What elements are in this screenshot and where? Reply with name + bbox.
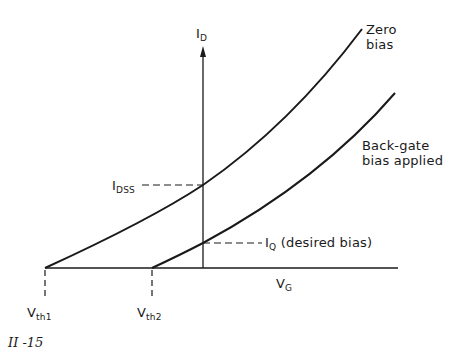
x-axis-label: VG bbox=[276, 276, 292, 293]
idss-label: IDSS bbox=[112, 178, 135, 195]
y-axis-label: ID bbox=[196, 26, 207, 43]
y-axis-arrow-icon bbox=[200, 46, 206, 57]
vth1-label: Vth1 bbox=[27, 305, 52, 322]
iq-label: IQ (desired bias) bbox=[265, 235, 372, 252]
transfer-characteristic-diagram bbox=[0, 0, 458, 363]
zero-bias-label: Zero bias bbox=[366, 22, 397, 52]
back-gate-bias-label: Back-gate bias applied bbox=[362, 138, 443, 168]
vth2-label: Vth2 bbox=[137, 305, 162, 322]
figure-number: II -15 bbox=[8, 335, 43, 350]
